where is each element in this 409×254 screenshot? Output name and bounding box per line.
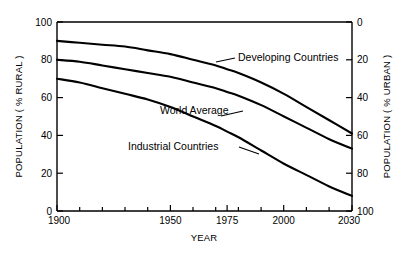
y-axis-title-left: POPULATION ( % RURAL )	[13, 55, 24, 177]
x-tick-label: 1900	[48, 215, 71, 226]
x-axis-title: YEAR	[191, 232, 218, 243]
y-tick-label-left: 100	[35, 17, 52, 28]
y-tick-label-left: 40	[41, 130, 53, 141]
annotation-world-average: World Average	[160, 104, 229, 116]
y-tick-label-right: 80	[357, 168, 369, 179]
annotation-developing-countries: Developing Countries	[238, 51, 338, 63]
y-tick-label-right: 20	[357, 54, 369, 65]
annotation-industrial-countries: Industrial Countries	[128, 140, 218, 152]
y-tick-label-right: 40	[357, 92, 369, 103]
x-tick-label: 1975	[216, 215, 239, 226]
y-tick-label-right: 0	[357, 17, 363, 28]
chart-figure: Developing Countries World Average Indus…	[0, 0, 409, 254]
y-tick-label-left: 60	[41, 92, 53, 103]
y-tick-label-left: 80	[41, 54, 53, 65]
y-tick-label-right: 60	[357, 130, 369, 141]
y-tick-label-left: 20	[41, 168, 53, 179]
x-tick-label: 1950	[159, 215, 182, 226]
y-axis-title-right: POPULATION ( % URBAN )	[381, 55, 392, 179]
chart-canvas: Developing Countries World Average Indus…	[0, 0, 409, 254]
x-tick-label: 2000	[273, 215, 296, 226]
x-tick-label: 2030	[338, 215, 361, 226]
